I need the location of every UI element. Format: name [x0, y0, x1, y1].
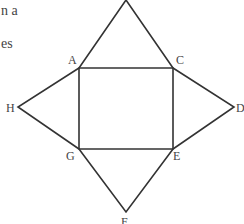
label-e: E [173, 149, 180, 163]
label-f: F [121, 215, 128, 224]
triangle-right [173, 68, 234, 149]
label-a: A [68, 53, 77, 67]
square-acge [79, 68, 173, 149]
triangle-left [18, 68, 79, 149]
triangle-top [79, 0, 173, 68]
label-c: C [176, 53, 184, 67]
label-g: G [66, 149, 75, 163]
label-d: D [236, 101, 244, 115]
label-h: H [6, 101, 15, 115]
triangle-bottom [79, 149, 173, 212]
net-diagram: A C G E H D F [0, 0, 244, 224]
